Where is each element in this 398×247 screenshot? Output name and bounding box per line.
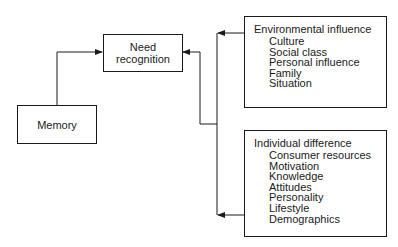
individual-difference-box: Individual difference Consumer resources… xyxy=(244,130,387,237)
individual-difference-title: Individual difference xyxy=(254,137,386,149)
list-item: Demographics xyxy=(254,214,386,225)
list-item: Situation xyxy=(254,78,386,89)
need-recognition-box: Need recognition xyxy=(103,34,183,72)
memory-box: Memory xyxy=(17,105,97,144)
need-recognition-line1: Need xyxy=(130,41,156,53)
list-item: Lifestyle xyxy=(254,203,386,214)
environmental-influence-box: Environmental influence Culture Social c… xyxy=(244,16,387,108)
need-recognition-line2: recognition xyxy=(116,53,170,65)
bus-to-need-arrow xyxy=(183,52,217,124)
list-item: Culture xyxy=(254,36,386,47)
memory-to-need-arrow xyxy=(57,52,102,105)
list-item: Consumer resources xyxy=(254,150,386,161)
memory-label: Memory xyxy=(37,119,77,131)
environmental-influence-title: Environmental influence xyxy=(254,23,386,35)
